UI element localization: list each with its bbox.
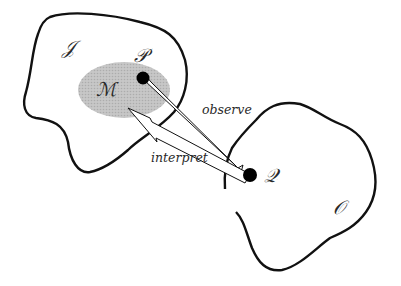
observe-interpret-diagram: 𝒥 𝒫 ℳ 𝒬 𝒪 observe interpret xyxy=(0,0,401,286)
label-interpret: interpret xyxy=(151,150,209,165)
label-set-i: 𝒥 xyxy=(61,36,82,59)
label-region-m: ℳ xyxy=(96,78,119,100)
set-o-outline xyxy=(225,103,376,270)
label-point-p: 𝒫 xyxy=(134,44,153,66)
label-observe: observe xyxy=(202,102,252,117)
point-q xyxy=(243,168,257,182)
label-set-o: 𝒪 xyxy=(333,196,350,218)
point-p xyxy=(137,72,150,85)
label-point-q: 𝒬 xyxy=(264,164,281,186)
